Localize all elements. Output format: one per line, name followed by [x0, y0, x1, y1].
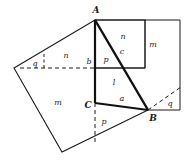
outer-quadrilateral: [14, 20, 148, 152]
label-q-right: q: [167, 100, 172, 108]
label-a: a: [120, 95, 125, 103]
label-n-right: n: [120, 33, 125, 41]
label-p-bottom: p: [101, 118, 106, 126]
vertex-label-B: B: [149, 114, 157, 123]
label-m-left: m: [54, 99, 62, 107]
figure-canvas: [0, 0, 186, 164]
label-c: c: [120, 48, 124, 56]
label-m-right: m: [149, 41, 157, 49]
label-l: l: [113, 79, 116, 87]
vertex-label-C: C: [84, 101, 91, 110]
label-b: b: [86, 58, 91, 66]
label-n-left: n: [63, 52, 68, 60]
label-p-center: p: [103, 56, 108, 64]
triangle-side-a: [95, 103, 148, 110]
vertex-label-A: A: [93, 6, 100, 15]
label-q-left: q: [32, 60, 37, 68]
geometry-figure: A B C q n m b p c n m l a q p: [0, 0, 186, 164]
dashed-diagonal-right: [148, 87, 181, 110]
